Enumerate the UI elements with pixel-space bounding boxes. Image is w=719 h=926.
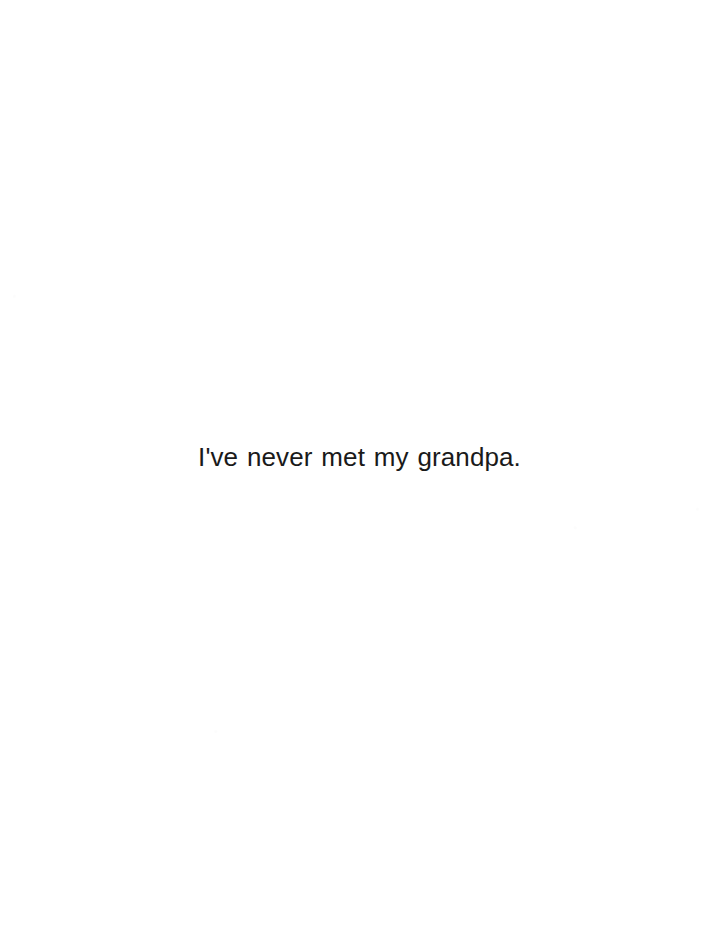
scanned-page: I've never met my grandpa. [0,0,719,926]
body-text-line: I've never met my grandpa. [198,441,521,473]
body-text-block: I've never met my grandpa. [0,441,719,473]
